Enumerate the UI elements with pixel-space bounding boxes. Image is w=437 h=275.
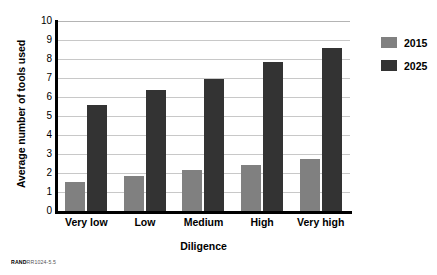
source-note: RANDRR1024-5.5 bbox=[11, 259, 56, 265]
x-axis-title: Diligence bbox=[57, 240, 350, 252]
x-tick-label: Medium bbox=[174, 216, 233, 228]
legend-item-2015: 2015 bbox=[381, 33, 437, 52]
x-tick-label: High bbox=[233, 216, 292, 228]
x-axis-tick-labels: Very lowLowMediumHighVery high bbox=[57, 216, 350, 232]
y-tick-label: 6 bbox=[30, 92, 52, 102]
y-tick-label: 8 bbox=[30, 54, 52, 64]
y-tick-label: 7 bbox=[30, 73, 52, 83]
plot-area bbox=[57, 21, 350, 211]
bar-2015-very-high bbox=[300, 159, 320, 211]
bar-2015-high bbox=[241, 165, 261, 211]
x-axis-spine bbox=[55, 211, 352, 214]
source-brand: RAND bbox=[11, 259, 27, 265]
source-code: RR1024-5.5 bbox=[27, 259, 56, 265]
bar-group bbox=[116, 21, 175, 211]
y-tick-label: 0 bbox=[30, 206, 52, 216]
bar-2025-medium bbox=[204, 79, 224, 211]
y-axis-tick-labels: 012345678910 bbox=[26, 21, 52, 211]
bar-group bbox=[233, 21, 292, 211]
y-tick-label: 3 bbox=[30, 149, 52, 159]
bar-2025-low bbox=[146, 90, 166, 211]
figure: Average number of tools used 01234567891… bbox=[0, 0, 437, 275]
x-tick-label: Low bbox=[116, 216, 175, 228]
bar-group bbox=[291, 21, 350, 211]
bar-2025-very-high bbox=[322, 48, 342, 211]
bar-2025-very-low bbox=[87, 105, 107, 211]
legend-item-2025: 2025 bbox=[381, 56, 437, 75]
x-tick-label: Very low bbox=[57, 216, 116, 228]
x-tick-label: Very high bbox=[291, 216, 350, 228]
bar-2025-high bbox=[263, 62, 283, 211]
legend-label-2015: 2015 bbox=[404, 37, 427, 49]
legend-label-2025: 2025 bbox=[404, 60, 427, 72]
bar-2015-low bbox=[124, 176, 144, 211]
y-tick-label: 10 bbox=[30, 16, 52, 26]
bar-group bbox=[57, 21, 116, 211]
bar-2015-very-low bbox=[65, 182, 85, 211]
y-tick-label: 9 bbox=[30, 35, 52, 45]
bar-group bbox=[174, 21, 233, 211]
y-tick-label: 5 bbox=[30, 111, 52, 121]
bar-2015-medium bbox=[182, 170, 202, 211]
y-tick-label: 1 bbox=[30, 187, 52, 197]
y-axis-spine bbox=[55, 20, 58, 212]
legend-swatch-2025 bbox=[381, 60, 397, 71]
legend: 2015 2025 bbox=[381, 33, 437, 79]
y-tick-label: 4 bbox=[30, 130, 52, 140]
y-tick-label: 2 bbox=[30, 168, 52, 178]
legend-swatch-2015 bbox=[381, 37, 397, 48]
